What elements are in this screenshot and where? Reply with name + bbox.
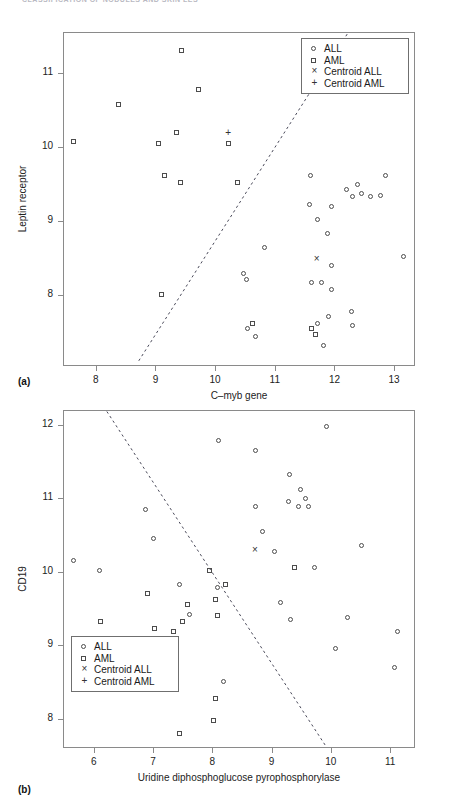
y-tick-label-b-4: 12 xyxy=(23,418,53,429)
data-point-aml xyxy=(177,731,182,736)
data-point-all xyxy=(326,314,331,319)
data-point-aml xyxy=(196,87,201,92)
data-point-all xyxy=(298,487,303,492)
data-point-all xyxy=(383,173,388,178)
x-tick-label-b-4: 10 xyxy=(316,756,346,767)
y-axis-title-b: CD19 xyxy=(17,566,28,592)
data-point-aml xyxy=(156,141,161,146)
data-point-all xyxy=(71,558,76,563)
legend-circle-icon xyxy=(307,43,321,54)
data-point-aml xyxy=(159,292,164,297)
data-point-aml xyxy=(180,619,185,624)
legend-x-icon: × xyxy=(307,66,321,77)
data-point-all xyxy=(262,245,267,250)
legend-label: AML xyxy=(321,55,345,66)
x-tick-label-b-3: 9 xyxy=(257,756,287,767)
data-point-aml xyxy=(185,602,190,607)
circle-marker-icon xyxy=(81,644,86,649)
data-point-all xyxy=(345,615,350,620)
data-point-aml xyxy=(215,613,220,618)
data-point-aml xyxy=(174,130,179,135)
x-tick-b-1 xyxy=(153,748,154,753)
data-point-centroid-aml: + xyxy=(223,127,234,138)
y-tick-label-a-3: 11 xyxy=(23,66,53,77)
data-point-aml xyxy=(152,626,157,631)
data-point-all xyxy=(241,271,246,276)
data-point-all xyxy=(151,536,156,541)
y-axis-title-a: Leptin receptor xyxy=(17,166,28,233)
x-tick-label-a-0: 8 xyxy=(81,374,111,385)
data-point-aml xyxy=(116,102,121,107)
x-tick-label-a-5: 13 xyxy=(379,374,409,385)
x-tick-b-0 xyxy=(94,748,95,753)
data-point-aml xyxy=(213,696,218,701)
data-point-aml xyxy=(145,591,150,596)
data-point-all xyxy=(309,280,314,285)
plus-marker-icon: + xyxy=(308,77,321,89)
plus-marker-icon: + xyxy=(78,675,91,687)
data-point-aml xyxy=(250,321,255,326)
data-point-all xyxy=(97,568,102,573)
data-point-all xyxy=(278,600,283,605)
legend-square-icon xyxy=(77,653,91,664)
x-tick-a-1 xyxy=(155,366,156,371)
data-point-all xyxy=(349,309,354,314)
decision-boundary-b xyxy=(63,410,415,748)
figure-panel-b: (b)6789101189101112Uridine diphosphogluc… xyxy=(0,400,456,808)
data-point-centroid-all: × xyxy=(250,544,261,555)
data-point-aml xyxy=(71,139,76,144)
y-tick-label-b-3: 11 xyxy=(23,491,53,502)
legend-row-b-2: ×Centroid ALL xyxy=(77,664,172,676)
data-point-all xyxy=(244,277,249,282)
figure-panel-a: (a)8910111213891011C–myb geneLeptin rece… xyxy=(0,18,456,398)
data-point-all xyxy=(288,617,293,622)
data-point-aml xyxy=(213,597,218,602)
x-tick-label-a-1: 9 xyxy=(140,374,170,385)
y-tick-label-b-1: 9 xyxy=(23,638,53,649)
data-point-all xyxy=(378,193,383,198)
x-tick-label-a-2: 10 xyxy=(200,374,230,385)
legend-row-a-2: ×Centroid ALL xyxy=(307,66,402,78)
data-point-aml xyxy=(211,718,216,723)
data-point-aml xyxy=(171,629,176,634)
legend-row-a-0: ALL xyxy=(307,43,402,55)
data-point-centroid-all: × xyxy=(311,253,322,264)
x-axis-title-b: Uridine diphosphoglucose pyrophosphoryla… xyxy=(63,772,415,783)
data-point-aml xyxy=(313,332,318,337)
data-point-all xyxy=(260,529,265,534)
panel-label-a: (a) xyxy=(18,376,30,387)
data-point-aml xyxy=(207,568,212,573)
legend-label: Centroid ALL xyxy=(321,66,382,77)
cross-marker-icon: × xyxy=(308,65,321,77)
x-tick-label-b-0: 6 xyxy=(79,756,109,767)
x-tick-b-2 xyxy=(212,748,213,753)
data-point-aml xyxy=(223,582,228,587)
x-tick-b-4 xyxy=(331,748,332,753)
legend-row-b-0: ALL xyxy=(77,641,172,653)
data-point-aml xyxy=(162,173,167,178)
data-point-all xyxy=(329,204,334,209)
x-tick-b-5 xyxy=(390,748,391,753)
data-point-all xyxy=(215,585,220,590)
x-tick-b-3 xyxy=(272,748,273,753)
data-point-all xyxy=(287,472,292,477)
data-point-all xyxy=(253,334,258,339)
data-point-aml xyxy=(98,619,103,624)
circle-marker-icon xyxy=(311,46,316,51)
data-point-all xyxy=(401,254,406,259)
x-tick-label-a-4: 12 xyxy=(319,374,349,385)
data-point-all xyxy=(221,679,226,684)
legend-row-a-3: +Centroid AML xyxy=(307,78,402,90)
y-tick-label-a-0: 8 xyxy=(23,288,53,299)
x-tick-label-b-1: 7 xyxy=(138,756,168,767)
legend-label: ALL xyxy=(321,43,342,54)
x-tick-label-b-5: 11 xyxy=(375,756,405,767)
data-point-all xyxy=(319,280,324,285)
data-point-all xyxy=(253,448,258,453)
legend-label: AML xyxy=(91,653,115,664)
x-tick-a-5 xyxy=(394,366,395,371)
legend-label: Centroid ALL xyxy=(91,664,152,675)
x-tick-a-0 xyxy=(96,366,97,371)
legend-x-icon: × xyxy=(77,664,91,675)
x-tick-a-2 xyxy=(215,366,216,371)
